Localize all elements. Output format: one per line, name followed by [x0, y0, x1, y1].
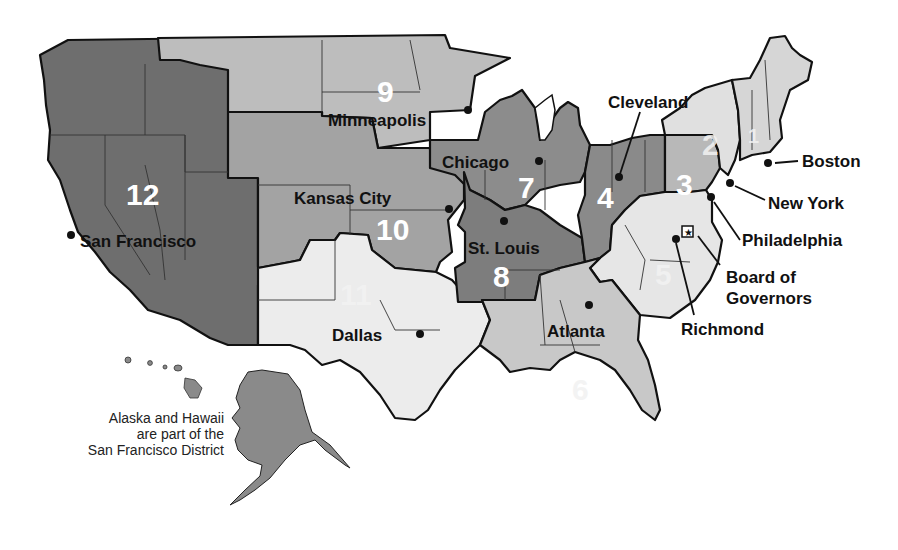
cleveland-dot: [615, 173, 623, 181]
label-dallas: Dallas: [332, 326, 382, 345]
alaska-hawaii-note: Alaska and Hawaii are part of the San Fr…: [28, 410, 224, 458]
st-louis-dot: [500, 217, 508, 225]
label-kansas-city: Kansas City: [294, 189, 392, 208]
chicago-dot: [535, 157, 543, 165]
label-atlanta: Atlanta: [547, 322, 605, 341]
label-minneapolis: Minneapolis: [328, 111, 426, 130]
label-st-louis: St. Louis: [468, 239, 540, 258]
note-line-1: Alaska and Hawaii: [28, 410, 224, 426]
philadelphia-dot: [707, 193, 715, 201]
label-new-york: New York: [768, 194, 844, 213]
label-philadelphia: Philadelphia: [742, 231, 843, 250]
label-board-line1: Board of: [726, 268, 796, 287]
label-chicago: Chicago: [442, 153, 509, 172]
district-number-6: 6: [572, 373, 589, 406]
district-number-5: 5: [655, 258, 672, 291]
label-cleveland: Cleveland: [608, 93, 688, 112]
dallas-dot: [416, 330, 424, 338]
district-1-region: [732, 36, 812, 160]
richmond-dot: [672, 235, 680, 243]
atlanta-dot: [585, 301, 593, 309]
district-number-12: 12: [126, 178, 159, 211]
hawaii-islands: [125, 357, 202, 398]
district-number-3: 3: [676, 168, 693, 201]
minneapolis-dot: [464, 106, 472, 114]
label-san-francisco: San Francisco: [80, 232, 196, 251]
district-number-9: 9: [377, 75, 394, 108]
label-boston: Boston: [802, 152, 861, 171]
boston-dot: [764, 159, 772, 167]
alaska-region: [230, 370, 350, 505]
label-richmond: Richmond: [681, 320, 764, 339]
san-francisco-dot: [67, 231, 75, 239]
district-number-2: 2: [702, 128, 719, 161]
kansas-city-dot: [445, 205, 453, 213]
new-york-dot: [726, 179, 734, 187]
district-number-11: 11: [340, 278, 372, 311]
district-number-10: 10: [376, 213, 409, 246]
note-line-2: are part of the: [28, 426, 224, 442]
district-number-8: 8: [493, 260, 510, 293]
star-icon: ★: [684, 227, 693, 238]
label-board-line2: Governors: [726, 289, 812, 308]
district-number-4: 4: [597, 181, 614, 214]
board-of-governors-marker: ★: [682, 226, 693, 238]
district-number-1: 1: [748, 125, 759, 147]
federal-reserve-district-map: 12 9 10 11 7 8 4 3 2 1 5 6 ★ San Francis…: [0, 0, 898, 550]
note-line-3: San Francisco District: [28, 442, 224, 458]
district-number-7: 7: [518, 171, 535, 204]
